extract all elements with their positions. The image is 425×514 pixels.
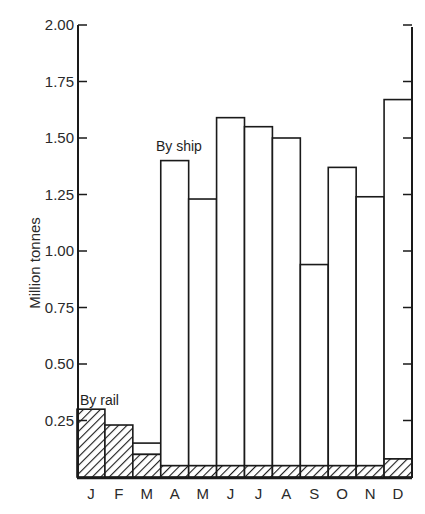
rail-segment [272, 466, 300, 477]
y-tick-label: 1.25 [45, 186, 74, 203]
y-tick-label: 1.75 [45, 73, 74, 90]
bar-3 [161, 161, 189, 477]
x-tick-label: A [281, 485, 291, 502]
y-tick-label: 1.50 [45, 129, 74, 146]
ship-segment [384, 100, 412, 459]
y-tick-label: 0.75 [45, 299, 74, 316]
x-tick-label: F [114, 485, 123, 502]
y-tick-label: 0.50 [45, 355, 74, 372]
ship-segment [245, 127, 273, 466]
x-tick-label: N [365, 485, 376, 502]
stacked-bar-chart: Million tonnes 0.250.500.751.001.251.501… [0, 0, 425, 514]
x-tick-label: J [87, 485, 95, 502]
ship-segment [133, 443, 161, 454]
rail-segment [133, 454, 161, 477]
bar-9 [328, 167, 356, 477]
y-tick-label: 2.00 [45, 16, 74, 33]
ship-segment [328, 167, 356, 465]
bar-0 [77, 409, 105, 477]
x-tick-label: J [255, 485, 263, 502]
bars-group [77, 100, 412, 477]
rail-segment [77, 409, 105, 477]
bar-5 [217, 118, 245, 477]
y-tick-label: 0.25 [45, 412, 74, 429]
ship-segment [272, 138, 300, 466]
ship-segment [356, 197, 384, 466]
x-tick-label: O [336, 485, 348, 502]
rail-segment [328, 466, 356, 477]
bar-8 [300, 265, 328, 477]
rail-segment [384, 459, 412, 477]
rail-segment [300, 466, 328, 477]
by-ship-annotation: By ship [156, 138, 202, 154]
bar-2 [133, 443, 161, 477]
x-tick-label: D [393, 485, 404, 502]
x-tick-label: S [309, 485, 319, 502]
x-tick-label: A [170, 485, 180, 502]
bar-1 [105, 425, 133, 477]
bar-10 [356, 197, 384, 477]
x-tick-label: M [196, 485, 209, 502]
bar-6 [245, 127, 273, 477]
y-tick-label: 1.00 [45, 242, 74, 259]
rail-segment [189, 466, 217, 477]
by-rail-annotation: By rail [80, 392, 119, 408]
ship-segment [189, 199, 217, 466]
y-axis-label: Million tonnes [26, 217, 43, 309]
rail-segment [105, 425, 133, 477]
bar-7 [272, 138, 300, 477]
bar-4 [189, 199, 217, 477]
rail-segment [356, 466, 384, 477]
ship-segment [161, 161, 189, 466]
y-axis-title: Million tonnes [26, 217, 43, 309]
ship-segment [217, 118, 245, 466]
rail-segment [161, 466, 189, 477]
rail-segment [217, 466, 245, 477]
x-labels-group: JFMAMJJASOND [87, 485, 403, 502]
rail-segment [245, 466, 273, 477]
x-tick-label: M [141, 485, 154, 502]
x-tick-label: J [227, 485, 235, 502]
ship-segment [300, 265, 328, 466]
